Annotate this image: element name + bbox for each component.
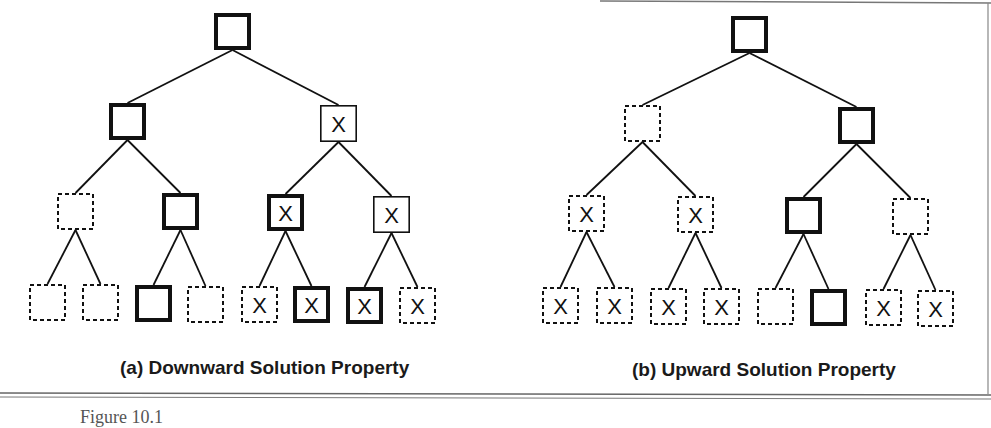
tree-node-b-LRL: X bbox=[651, 289, 686, 324]
dashed-box bbox=[758, 289, 793, 324]
thick-box bbox=[164, 195, 197, 228]
thick-box bbox=[216, 15, 249, 48]
tree-edge bbox=[696, 233, 722, 288]
x-mark-icon: X bbox=[252, 293, 267, 318]
frame-bottom-line-1 bbox=[0, 393, 991, 395]
tree-edge bbox=[750, 53, 857, 107]
tree-edges bbox=[48, 50, 936, 290]
x-mark-icon: X bbox=[553, 294, 568, 319]
tree-edge bbox=[181, 230, 206, 286]
tree-edge bbox=[911, 235, 936, 290]
tree-node-b-L bbox=[625, 106, 660, 141]
tree-node-a-RRL: X bbox=[348, 289, 381, 322]
x-mark-icon: X bbox=[278, 201, 293, 226]
tree-node-b-RL bbox=[787, 199, 820, 232]
tree-node-a-r bbox=[216, 15, 249, 48]
tree-node-b-RRL: X bbox=[866, 290, 901, 325]
x-mark-icon: X bbox=[688, 203, 703, 228]
tree-edge bbox=[669, 233, 696, 288]
tree-node-b-LRR: X bbox=[704, 289, 739, 324]
tree-node-a-LRR bbox=[188, 287, 223, 322]
tree-edge bbox=[286, 231, 312, 286]
tree-node-a-RLR: X bbox=[295, 288, 328, 321]
tree-node-a-LLL bbox=[30, 285, 65, 320]
tree-edge bbox=[76, 140, 128, 193]
x-mark-icon: X bbox=[579, 202, 594, 227]
dashed-box bbox=[188, 287, 223, 322]
figure-caption-partial: Figure 10.1 bbox=[80, 407, 163, 428]
tree-node-a-RL: X bbox=[269, 196, 302, 229]
tree-node-b-RR bbox=[893, 199, 928, 234]
tree-node-a-LL bbox=[58, 194, 93, 229]
tree-edge bbox=[857, 144, 911, 198]
tree-edge bbox=[776, 234, 804, 288]
thick-box bbox=[787, 199, 820, 232]
tree-node-b-LLR: X bbox=[597, 288, 632, 323]
thick-box bbox=[137, 287, 170, 320]
thick-box bbox=[733, 18, 766, 51]
tree-node-a-RRR: X bbox=[400, 288, 435, 323]
tree-edge bbox=[392, 233, 418, 287]
tree-node-b-R bbox=[840, 109, 873, 142]
thick-box bbox=[111, 105, 144, 138]
x-mark-icon: X bbox=[714, 295, 729, 320]
tree-nodes: XXXXXXXXXXXXXXX bbox=[30, 15, 953, 326]
dashed-box bbox=[83, 285, 118, 320]
tree-node-a-L bbox=[111, 105, 144, 138]
tree-edge bbox=[643, 53, 750, 105]
caption-a: (a) Downward Solution Property bbox=[120, 357, 409, 379]
tree-node-a-RR: X bbox=[374, 197, 409, 232]
tree-edge bbox=[128, 140, 181, 193]
tree-edge bbox=[365, 233, 392, 287]
tree-node-a-R: X bbox=[321, 106, 356, 141]
x-mark-icon: X bbox=[304, 293, 319, 318]
tree-edge bbox=[587, 232, 615, 287]
x-mark-icon: X bbox=[384, 203, 399, 228]
tree-node-b-RRR: X bbox=[918, 291, 953, 326]
tree-edge bbox=[587, 142, 643, 195]
caption-b: (b) Upward Solution Property bbox=[632, 359, 896, 381]
tree-node-a-LLR bbox=[83, 285, 118, 320]
tree-node-b-RLL bbox=[758, 289, 793, 324]
tree-node-a-LR bbox=[164, 195, 197, 228]
tree-node-b-LLL: X bbox=[543, 288, 578, 323]
x-mark-icon: X bbox=[876, 296, 891, 321]
tree-edge bbox=[339, 142, 392, 196]
frame-top-line bbox=[600, 1, 991, 3]
tree-node-b-r bbox=[733, 18, 766, 51]
x-mark-icon: X bbox=[410, 294, 425, 319]
dashed-box bbox=[30, 285, 65, 320]
dashed-box bbox=[893, 199, 928, 234]
tree-edge bbox=[76, 230, 101, 284]
x-mark-icon: X bbox=[331, 112, 346, 137]
tree-edge bbox=[561, 232, 587, 287]
frame-bottom-line-2 bbox=[0, 397, 991, 399]
tree-edge bbox=[286, 142, 339, 194]
thick-box bbox=[840, 109, 873, 142]
tree-node-b-LR: X bbox=[678, 197, 713, 232]
x-mark-icon: X bbox=[661, 295, 676, 320]
dashed-box bbox=[625, 106, 660, 141]
tree-edge bbox=[804, 144, 857, 197]
tree-edge bbox=[260, 231, 286, 286]
tree-edge bbox=[154, 230, 181, 285]
tree-edge bbox=[804, 234, 829, 289]
thick-box bbox=[812, 291, 845, 324]
x-mark-icon: X bbox=[607, 294, 622, 319]
tree-edge bbox=[128, 50, 233, 103]
tree-edge bbox=[48, 230, 76, 284]
tree-edge bbox=[233, 50, 339, 105]
tree-node-a-LRL bbox=[137, 287, 170, 320]
tree-node-b-RLR bbox=[812, 291, 845, 324]
x-mark-icon: X bbox=[357, 294, 372, 319]
tree-edge bbox=[643, 142, 696, 196]
dashed-box bbox=[58, 194, 93, 229]
tree-node-b-LL: X bbox=[569, 196, 604, 231]
tree-edge bbox=[884, 235, 911, 289]
tree-node-a-RLL: X bbox=[242, 287, 277, 322]
x-mark-icon: X bbox=[928, 297, 943, 322]
